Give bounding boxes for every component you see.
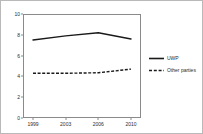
legend-item-uwp: UWP (149, 55, 201, 62)
series-line-uwp (33, 33, 131, 40)
dashed-line-swatch (149, 67, 164, 74)
y-tick-label: 10 (14, 12, 20, 17)
x-tick-mark (65, 118, 66, 120)
y-tick-label: 4 (17, 74, 20, 79)
y-tick-mark (21, 118, 23, 119)
y-tick-label: 6 (17, 53, 20, 58)
x-tick-label: 2003 (60, 122, 71, 127)
legend-item-other-parties: Other parties (149, 67, 201, 74)
plot-area: 0246810 1999200320062010 (23, 14, 141, 118)
y-tick-label: 0 (17, 116, 20, 121)
x-tick-mark (131, 118, 132, 120)
legend-label-other-parties: Other parties (167, 68, 196, 73)
y-tick-mark (21, 76, 23, 77)
x-tick-mark (98, 118, 99, 120)
x-tick-mark (33, 118, 34, 120)
y-tick-mark (21, 55, 23, 56)
chart-plot-lines (23, 14, 141, 118)
series-line-other-parties (33, 69, 131, 73)
y-tick-label: 8 (17, 32, 20, 37)
y-tick-label: 2 (17, 95, 20, 100)
chart-figure: 0246810 1999200320062010 UWP Other parti… (0, 0, 203, 134)
chart-legend: UWP Other parties (149, 55, 201, 79)
legend-label-uwp: UWP (167, 56, 179, 61)
solid-line-swatch (149, 55, 164, 62)
y-tick-mark (21, 97, 23, 98)
x-tick-label: 2010 (125, 122, 136, 127)
x-tick-label: 1999 (27, 122, 38, 127)
x-tick-label: 2006 (93, 122, 104, 127)
y-tick-mark (21, 34, 23, 35)
y-tick-mark (21, 14, 23, 15)
